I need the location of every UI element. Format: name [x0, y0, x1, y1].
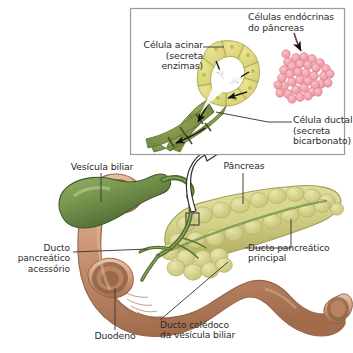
- label-endocrine-cells: Células endócrinas do pâncreas: [248, 12, 346, 33]
- label-acinar-cell: Célula acinar (secreta enzimas): [131, 40, 203, 72]
- label-duodenum: Duodeno: [81, 331, 149, 342]
- label-duct-cell: Célula ductal (secreta bicarbonato): [293, 115, 353, 147]
- label-common-bile-duct: Ducto colédoco da vesícula biliar: [160, 320, 270, 341]
- label-main-pancreatic-duct: Ducto pancreático principal: [248, 243, 348, 264]
- label-pancreas: Pâncreas: [217, 161, 271, 172]
- label-gallbladder: Vesícula biliar: [58, 162, 146, 173]
- label-accessory-pancreatic-duct: Ducto pancreático acessório: [0, 243, 70, 274]
